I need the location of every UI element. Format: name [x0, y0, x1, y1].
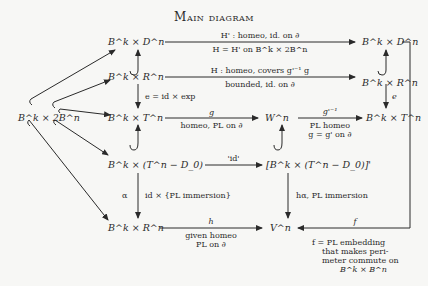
- label-second-below: bounded, id. on ∂: [165, 80, 355, 89]
- label-top-above: H' : homeo, id. on ∂: [165, 31, 355, 40]
- node-bk-rn-right: B^k × R^n: [362, 78, 418, 88]
- node-vn: V^n: [270, 223, 291, 233]
- label-f-note1: f = PL embedding: [312, 238, 385, 247]
- node-bk-tn-left: B^k × T^n: [108, 113, 163, 123]
- label-h-below2: PL on ∂: [160, 240, 262, 249]
- label-h-below1: given homeo: [160, 231, 262, 240]
- node-wn: W^n: [265, 113, 289, 123]
- label-ginv-below1: PL homeo: [298, 121, 362, 130]
- label-f-note3: meter commute on: [322, 256, 399, 265]
- label-left-e: e = id × exp: [145, 92, 195, 101]
- node-bk-tn-minus-d0-prime: [B^k × (T^n − D_0)]': [266, 160, 371, 170]
- label-alpha: α: [122, 191, 127, 200]
- label-right-e: e: [392, 92, 397, 101]
- label-top-below: H = H' on B^k × 2B^n: [165, 45, 355, 54]
- label-id-quote: 'id': [205, 154, 262, 163]
- label-f-note4: B^k × B^n: [340, 265, 387, 274]
- node-bk-2bn: B^k × 2B^n: [18, 113, 80, 123]
- node-bk-tn-right: B^k × T^n: [366, 113, 421, 123]
- label-h-above: h: [160, 217, 262, 226]
- node-bk-tn-minus-d0: B^k × (T^n − D_0): [108, 160, 203, 170]
- label-second-above: H : homeo, covers g'⁻¹ g: [165, 66, 355, 75]
- label-g-above: g: [165, 108, 258, 117]
- node-bk-rn-left: B^k × R^n: [108, 72, 164, 82]
- label-g-below: homeo, PL on ∂: [165, 121, 258, 130]
- label-id-pl-immersion: id × {PL immersion}: [145, 191, 231, 200]
- label-ginv-above: g'⁻¹: [298, 107, 362, 116]
- label-h-alpha: hα, PL immersion: [296, 191, 368, 200]
- label-ginv-below2: g = g' on ∂: [298, 130, 362, 139]
- node-bk-dn-left: B^k × D^n: [108, 37, 164, 47]
- node-bk-dn-right: B^k × D^n: [362, 37, 418, 47]
- label-f-above: f: [300, 217, 410, 226]
- label-f-note2: that makes peri-: [322, 247, 388, 256]
- node-bk-rn-bottom: B^k × R^n: [108, 223, 164, 233]
